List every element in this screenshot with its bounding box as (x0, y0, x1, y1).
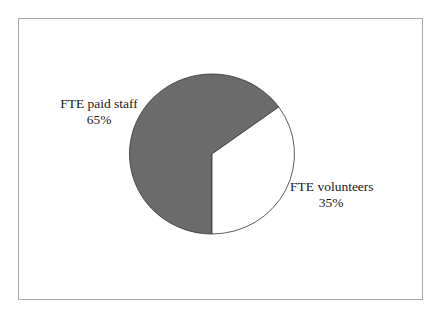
pie-chart (0, 0, 440, 315)
label-paid-staff: FTE paid staff 65% (58, 96, 140, 128)
label-volunteers-name: FTE volunteers (290, 179, 372, 195)
label-paid-staff-name: FTE paid staff (58, 96, 140, 112)
label-volunteers: FTE volunteers 35% (290, 179, 372, 211)
label-volunteers-pct: 35% (290, 195, 372, 211)
label-paid-staff-pct: 65% (58, 112, 140, 128)
